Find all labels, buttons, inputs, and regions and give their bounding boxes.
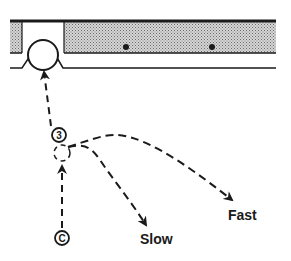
dot-2 <box>209 44 215 50</box>
lower-line-right <box>56 56 276 68</box>
diagram-canvas: 3 C Fast Slow <box>0 0 291 261</box>
position-3-marker: 3 <box>52 128 66 142</box>
circle-in-opening <box>28 40 58 70</box>
lower-line-left <box>10 56 30 68</box>
dot-1 <box>123 44 129 50</box>
fast-path-arrow <box>68 135 232 200</box>
fast-label: Fast <box>228 207 257 223</box>
start-c-marker: C <box>55 231 69 245</box>
position-3-label: 3 <box>56 130 62 141</box>
slow-path-arrow <box>68 146 146 225</box>
dashed-position-circle <box>54 145 70 161</box>
slow-label: Slow <box>140 231 173 247</box>
wall-right-section <box>64 21 276 53</box>
wall-left-section <box>10 21 22 53</box>
arrow-to-circle <box>44 72 51 126</box>
start-c-label: C <box>58 233 65 244</box>
